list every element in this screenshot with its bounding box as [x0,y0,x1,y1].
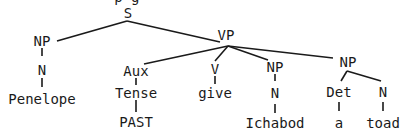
node-tense: Tense [115,85,157,101]
node-n-direct: N [379,84,387,100]
edge-np3-n [347,71,381,81]
word-past: PAST [119,114,153,130]
node-n-indirect: N [271,85,279,101]
node-aux: Aux [123,63,148,79]
syntax-tree-diagram: · · · p g · S NP N Penelope VP Aux Tense… [0,0,405,140]
top-fragment: · · · p g · [64,0,157,5]
edge-s-vp [127,21,220,42]
node-s: S [124,5,132,21]
node-n-subject: N [38,62,46,78]
node-v: V [211,61,220,77]
node-det: Det [326,84,351,100]
edge-np3-det [341,71,347,81]
node-np-direct: NP [340,54,357,70]
word-toad: toad [366,115,400,131]
node-vp: VP [218,27,235,43]
word-ichabod: Ichabod [245,115,304,131]
word-a: a [335,115,343,131]
word-give: give [198,85,232,101]
word-penelope: Penelope [8,91,75,107]
node-np-subject: NP [34,33,51,49]
node-np-indirect: NP [267,59,284,75]
edge-s-np [57,21,127,41]
